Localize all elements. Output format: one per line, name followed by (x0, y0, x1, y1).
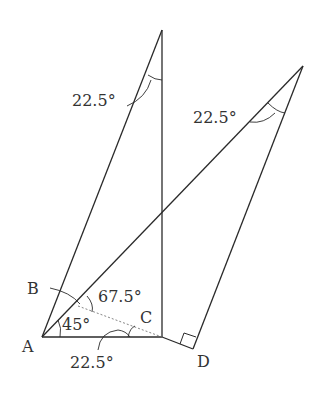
point-label-a: A (21, 337, 34, 356)
right-angle-marker-d (180, 333, 196, 344)
angle-label-top-left: 22.5° (72, 91, 116, 110)
angle-label-b: 67.5° (98, 287, 142, 306)
angle-label-c-bottom: 22.5° (70, 353, 114, 372)
geometry-diagram: 22.5° 22.5° 67.5° 45° 22.5° B A C D (0, 0, 323, 395)
angle-arc-top-right (268, 103, 285, 113)
angle-label-a: 45° (62, 315, 90, 334)
angle-arc-a (58, 320, 61, 337)
point-label-c: C (140, 308, 152, 327)
point-label-b: B (27, 279, 39, 298)
angle-arc-top-left (148, 75, 162, 80)
angle-leader-top-left (127, 80, 151, 106)
angle-label-top-right: 22.5° (193, 108, 237, 127)
point-label-d: D (197, 352, 210, 371)
angle-leader-c (98, 330, 130, 350)
segment-c-d (162, 337, 193, 349)
angle-arc-b (87, 296, 92, 312)
